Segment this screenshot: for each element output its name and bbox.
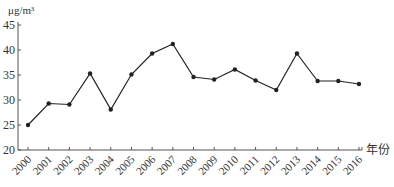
data-series <box>26 42 361 127</box>
data-point-marker <box>88 71 92 75</box>
data-point-marker <box>191 75 195 79</box>
x-tick-label: 2011 <box>237 153 261 177</box>
data-point-marker <box>212 77 216 81</box>
x-tick-label: 2008 <box>175 153 199 177</box>
y-tick-label: 35 <box>3 68 15 82</box>
x-tick-label: 2013 <box>278 153 302 177</box>
y-axis: 202530354045 <box>3 18 21 157</box>
x-tick-label: 2007 <box>154 153 178 177</box>
x-tick-label: 2009 <box>196 153 220 177</box>
y-axis-label: μg/m³ <box>8 4 35 16</box>
y-tick-label: 20 <box>3 143 15 157</box>
data-point-marker <box>336 79 340 83</box>
data-point-marker <box>274 88 278 92</box>
data-point-marker <box>129 72 133 76</box>
data-point-marker <box>171 42 175 46</box>
data-point-marker <box>295 51 299 55</box>
data-point-marker <box>233 67 237 71</box>
y-tick-label: 30 <box>3 93 15 107</box>
data-point-marker <box>26 123 30 127</box>
data-point-marker <box>315 79 319 83</box>
data-point-marker <box>109 107 113 111</box>
y-tick-label: 25 <box>3 118 15 132</box>
data-point-marker <box>357 82 361 86</box>
y-tick-label: 40 <box>3 43 15 57</box>
x-tick-label: 2006 <box>133 153 157 177</box>
x-tick-label: 2005 <box>113 153 137 177</box>
data-point-marker <box>67 102 71 106</box>
data-point-marker <box>253 78 257 82</box>
x-tick-label: 2014 <box>299 153 323 177</box>
x-tick-label: 2004 <box>92 153 116 177</box>
data-point-marker <box>150 51 154 55</box>
data-point-marker <box>46 101 50 105</box>
x-tick-label: 2012 <box>258 153 282 177</box>
x-tick-label: 2015 <box>320 153 344 177</box>
x-tick-label: 2003 <box>71 153 95 177</box>
x-axis: 2000200120022003200420052006200720082009… <box>9 147 364 177</box>
x-tick-label: 2010 <box>216 153 240 177</box>
series-line <box>28 44 359 125</box>
x-tick-label: 2001 <box>30 153 54 177</box>
x-tick-label: 2002 <box>51 153 75 177</box>
line-chart: 202530354045 200020012002200320042005200… <box>0 0 394 187</box>
x-axis-label: 年份 <box>366 143 390 157</box>
y-tick-label: 45 <box>3 18 15 32</box>
x-tick-label: 2016 <box>340 153 364 177</box>
